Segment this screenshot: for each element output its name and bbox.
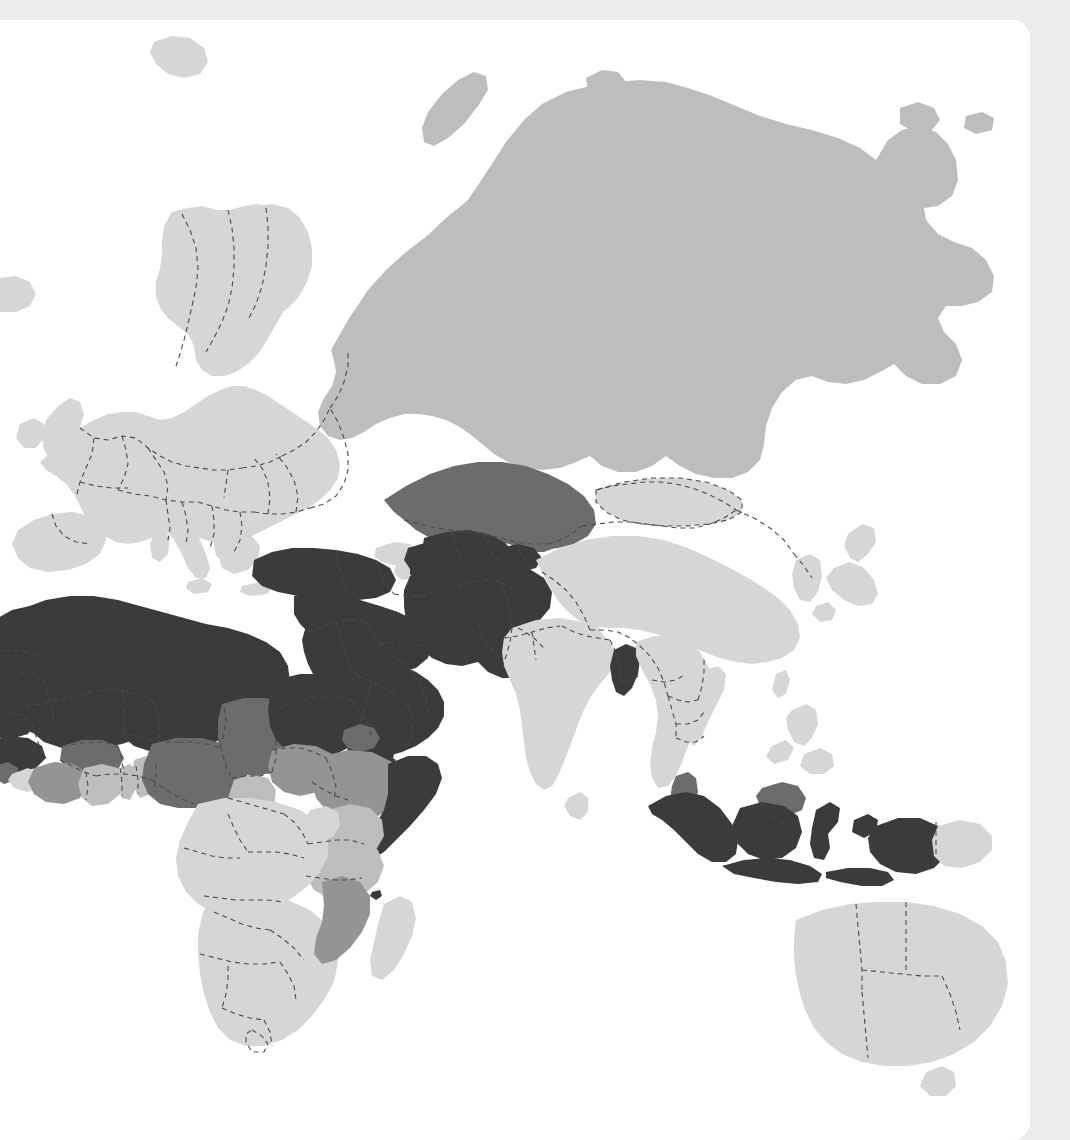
map-card: .t5{fill:#3b3b3b;} .t4{fill:#6c6c6c;} .t… — [0, 20, 1030, 1140]
world-choropleth-map[interactable]: .t5{fill:#3b3b3b;} .t4{fill:#6c6c6c;} .t… — [0, 20, 1030, 1140]
